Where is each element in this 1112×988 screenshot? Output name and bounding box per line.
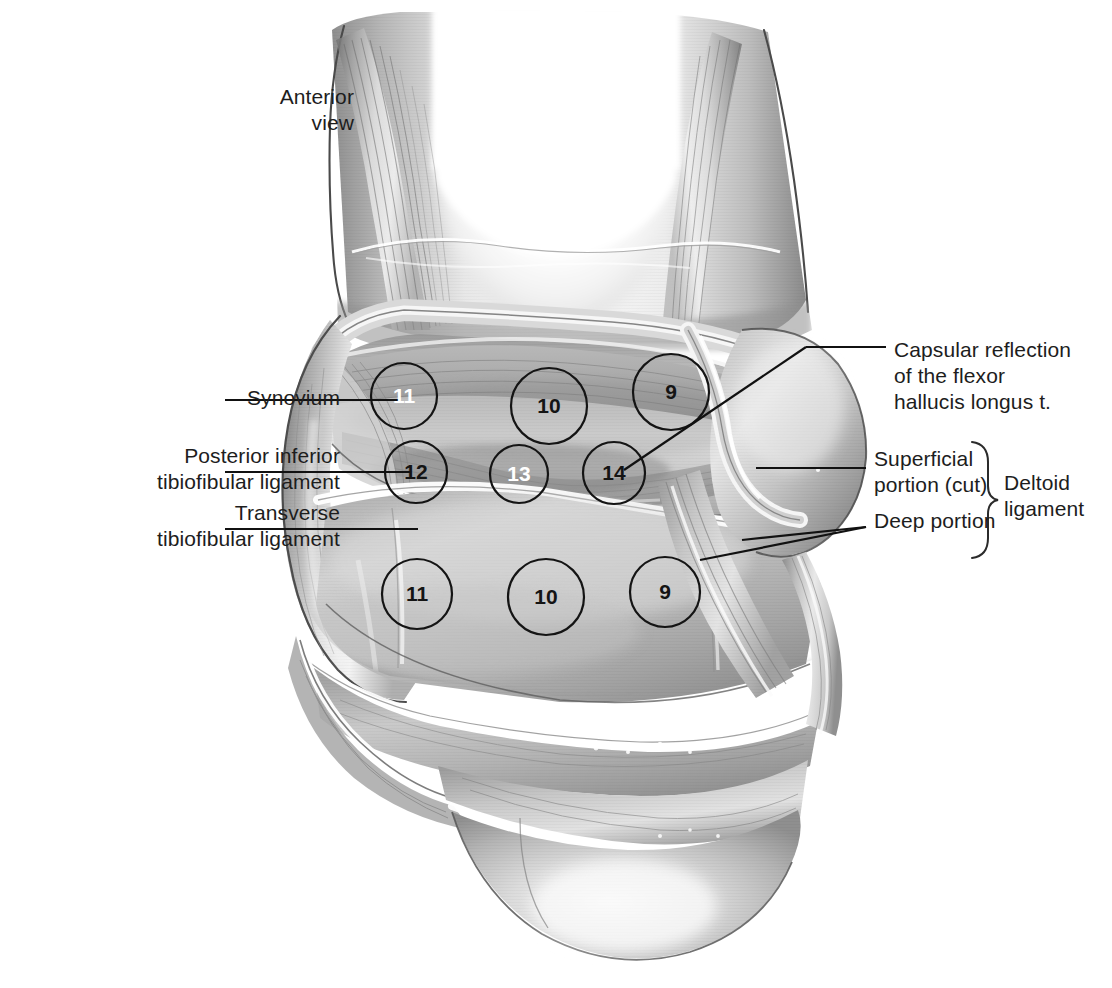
figure-page: Anterior view Synovium Posterior inferio… — [0, 0, 1112, 988]
anterior-view-label: Anterior view — [222, 84, 354, 136]
label-capsular-reflection-flexor-hallucis-longus: Capsular reflection of the flexor halluc… — [894, 337, 1104, 415]
label-synovium: Synovium — [88, 385, 340, 411]
label-deltoid-ligament: Deltoid ligament — [1004, 470, 1108, 522]
label-superficial-portion-cut: Superficial portion (cut) — [874, 446, 1022, 498]
label-transverse-tibiofibular-ligament: Transverse tibiofibular ligament — [28, 500, 340, 552]
tibia-shaft-group — [330, 0, 813, 350]
label-posterior-inferior-tibiofibular-ligament: Posterior inferior tibiofibular ligament — [28, 443, 340, 495]
label-deep-portion: Deep portion — [874, 508, 1022, 534]
